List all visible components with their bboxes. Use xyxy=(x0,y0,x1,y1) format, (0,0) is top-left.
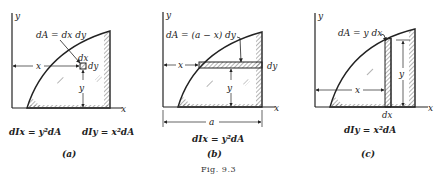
element-label: dA = dx dy xyxy=(36,30,87,40)
y-dim-label: y xyxy=(398,69,405,79)
hatch-edge xyxy=(256,32,262,107)
element-label: dA = y dx xyxy=(338,28,382,38)
area-outline xyxy=(330,29,415,107)
area-strip xyxy=(199,62,262,68)
formula-iy: dIy = x²dA xyxy=(82,127,134,137)
y-dim-label: y xyxy=(78,83,85,93)
hatch-mark xyxy=(56,76,64,84)
hatch-bottom xyxy=(178,104,262,107)
leader-arrow xyxy=(60,40,80,63)
formula-iy: dIy = x²dA xyxy=(344,125,396,135)
formula-ix: dIx = y²dA xyxy=(9,127,61,137)
panel-label: (c) xyxy=(361,149,375,159)
panel-label: (a) xyxy=(62,149,76,159)
hatch-mark xyxy=(206,80,214,88)
hatch-edge xyxy=(409,29,415,107)
hatch-edge xyxy=(104,31,110,108)
x-dim-label: x xyxy=(178,60,183,70)
y-axis-label: y xyxy=(14,11,21,21)
area-element xyxy=(80,63,86,69)
a-dim-label: a xyxy=(209,117,214,127)
y-axis-label: y xyxy=(317,11,324,21)
y-dim-label: y xyxy=(226,83,233,93)
panel-a: y x dA = dx dy dx dy x y dIx = y²dA dIy … xyxy=(9,11,134,159)
hatch-mark xyxy=(366,68,374,76)
figure-9-3: y x dA = dx dy dx dy x y dIx = y²dA dIy … xyxy=(0,0,441,180)
x-dim-label: x xyxy=(36,61,41,71)
hatch-mark xyxy=(243,79,250,86)
x-axis-label: x xyxy=(121,104,126,114)
x-axis-label: x xyxy=(274,103,279,113)
hatch-mark xyxy=(95,75,102,82)
dy-label: dy xyxy=(88,61,98,71)
area-strip xyxy=(385,38,391,107)
hatch-bottom xyxy=(27,105,110,108)
panel-c: y x dA = y dx dx x y dIy = x²dA (c) xyxy=(315,11,433,159)
dx-label: dx xyxy=(382,110,392,120)
x-dim-label: x xyxy=(355,85,360,95)
dy-label: dy xyxy=(267,61,277,71)
hatch-bottom xyxy=(330,104,415,107)
panel-b: y x dA = (a − x) dy dy x y a dIx = y²dA … xyxy=(163,10,279,174)
dx-label: dx xyxy=(78,53,88,63)
area-outline xyxy=(178,32,262,107)
formula-ix: dIx = y²dA xyxy=(192,134,244,144)
element-label: dA = (a − x) dy xyxy=(166,30,237,40)
figure-caption: Fig. 9.3 xyxy=(201,165,236,174)
x-axis-label: x xyxy=(428,103,433,113)
panel-label: (b) xyxy=(207,149,222,159)
y-axis-label: y xyxy=(165,10,172,20)
